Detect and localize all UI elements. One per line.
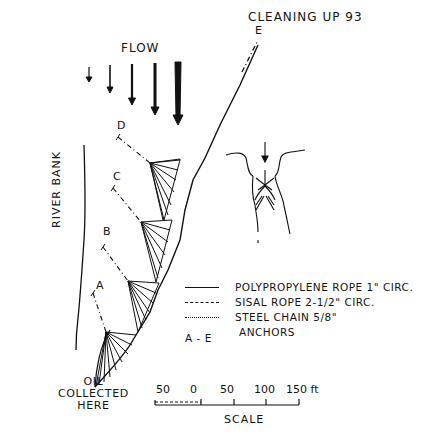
scale-tick-label: 0 [190,383,197,396]
anchor-chains [93,137,150,332]
anchor-label-a: A [96,279,104,292]
legend-row-polypropylene: POLYPROPYLENE ROPE 1" CIRC. [185,279,413,294]
flow-label: FLOW [121,41,159,55]
anchor-label-c: C [113,170,121,183]
scale-tick-label: 150 ft [286,383,318,396]
legend: POLYPROPYLENE ROPE 1" CIRC. SISAL ROPE 2… [185,279,413,339]
river-bank-label: RIVER BANK [50,151,63,228]
anchor-label-b: B [103,225,111,238]
legend-text: SISAL ROPE 2-1/2" CIRC. [235,296,375,308]
river-bank-line [76,145,85,350]
dashed-line-icon [185,302,219,303]
solid-line-icon [185,287,219,288]
dash-dot-line-icon [185,317,219,318]
legend-row-chain: STEEL CHAIN 5/8" [185,309,413,324]
oil-line-3: HERE [58,400,129,412]
scale-tick-label: 100 [254,383,275,396]
page-title: CLEANING UP 93 [248,10,363,24]
inset-diagram [226,142,305,243]
legend-row-anchors: A - E ANCHORS [185,324,413,339]
scale-tick-label: 50 [220,383,234,396]
anchor-label-e: E [255,24,262,37]
anchor-label-d: D [117,119,125,132]
scale-label: SCALE [224,413,264,426]
scale-tick-label: 50 [156,383,170,396]
legend-text: ANCHORS [239,326,295,338]
legend-text: STEEL CHAIN 5/8" [235,311,337,323]
boom-diagram [0,0,421,440]
oil-collected-label: OIL COLLECTED HERE [58,376,129,412]
legend-row-sisal: SISAL ROPE 2-1/2" CIRC. [185,294,413,309]
scale-bar: 50 0 50 100 150 ft SCALE [150,383,320,397]
flow-arrows [86,62,183,125]
legend-text: POLYPROPYLENE ROPE 1" CIRC. [235,281,413,293]
